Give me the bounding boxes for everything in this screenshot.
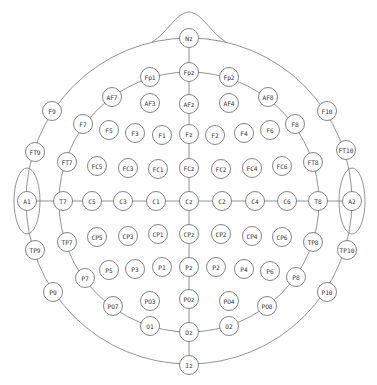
electrode-po3: PO3 bbox=[141, 292, 160, 311]
electrode-iz: Iz bbox=[180, 356, 199, 375]
electrode-cp2: CP2 bbox=[212, 225, 231, 244]
electrode-tp7: TP7 bbox=[58, 233, 77, 252]
electrode-fc6: FC6 bbox=[273, 157, 292, 176]
electrode-label: AF8 bbox=[262, 94, 273, 101]
electrode-fc3: FC3 bbox=[119, 159, 138, 178]
electrode-fz: Fz bbox=[180, 125, 199, 144]
electrode-p2: P2 bbox=[207, 258, 226, 277]
electrode-f8: F8 bbox=[286, 115, 305, 134]
electrode-f6: F6 bbox=[261, 121, 280, 140]
electrode-nz: Nz bbox=[180, 29, 199, 48]
electrode-poz: POz bbox=[180, 290, 199, 309]
electrode-fpz: Fpz bbox=[180, 63, 199, 82]
electrode-label: PO7 bbox=[107, 303, 118, 310]
electrode-p1: P1 bbox=[153, 258, 172, 277]
electrode-label: PO4 bbox=[223, 298, 234, 305]
electrode-label: F5 bbox=[105, 127, 113, 134]
electrode-label: CP5 bbox=[91, 234, 102, 241]
electrode-label: F4 bbox=[240, 130, 248, 137]
electrode-label: P8 bbox=[292, 274, 300, 281]
electrode-cp3: CP3 bbox=[119, 227, 138, 246]
electrode-tp10: TP10 bbox=[338, 241, 357, 260]
electrode-po7: PO7 bbox=[104, 297, 123, 316]
electrode-label: Nz bbox=[185, 35, 193, 42]
electrode-f5: F5 bbox=[100, 121, 119, 140]
electrode-p10: P10 bbox=[318, 283, 337, 302]
electrode-ft10: FT10 bbox=[337, 141, 356, 160]
electrode-o2: O2 bbox=[220, 317, 239, 336]
electrode-label: CP3 bbox=[122, 233, 133, 240]
electrode-f2: F2 bbox=[206, 126, 225, 145]
electrode-label: CPz bbox=[183, 231, 194, 238]
electrode-cz: Cz bbox=[180, 192, 199, 211]
electrode-label: FT9 bbox=[29, 149, 40, 156]
electrode-label: FT10 bbox=[339, 147, 354, 154]
electrode-f10: F10 bbox=[318, 102, 337, 121]
electrode-f1: F1 bbox=[153, 126, 172, 145]
electrode-label: F10 bbox=[321, 108, 332, 115]
electrode-fp1: Fp1 bbox=[141, 68, 160, 87]
electrode-label: FC1 bbox=[152, 166, 163, 173]
electrode-label: Fz bbox=[185, 131, 193, 138]
electrode-label: F8 bbox=[291, 121, 299, 128]
electrode-label: F1 bbox=[158, 132, 166, 139]
electrode-label: FT7 bbox=[61, 159, 72, 166]
electrode-fc5: FC5 bbox=[88, 157, 107, 176]
electrode-label: P6 bbox=[266, 268, 274, 275]
electrode-tp9: TP9 bbox=[26, 241, 45, 260]
electrode-label: F6 bbox=[266, 127, 274, 134]
electrode-label: FC6 bbox=[276, 163, 287, 170]
electrode-label: O2 bbox=[225, 323, 233, 330]
electrode-label: FC2 bbox=[215, 166, 226, 173]
electrode-o1: O1 bbox=[141, 317, 160, 336]
electrode-label: FT8 bbox=[307, 159, 318, 166]
electrode-p5: P5 bbox=[100, 261, 119, 280]
electrode-label: AFz bbox=[183, 101, 194, 108]
electrode-fc2: FC2 bbox=[212, 160, 231, 179]
electrode-c3: C3 bbox=[114, 192, 133, 211]
electrode-fcz: FCz bbox=[180, 159, 199, 178]
electrode-label: POz bbox=[183, 296, 194, 303]
electrode-label: P1 bbox=[158, 264, 166, 271]
electrode-po8: PO8 bbox=[258, 297, 277, 316]
electrode-label: P9 bbox=[49, 289, 57, 296]
electrode-c2: C2 bbox=[213, 192, 232, 211]
electrode-label: C3 bbox=[119, 198, 127, 205]
electrode-label: F9 bbox=[48, 108, 56, 115]
electrode-cp1: CP1 bbox=[149, 225, 168, 244]
electrode-cpz: CPz bbox=[180, 225, 199, 244]
electrode-p9: P9 bbox=[44, 283, 63, 302]
electrode-oz: Oz bbox=[180, 323, 199, 342]
electrode-label: PO3 bbox=[144, 298, 155, 305]
electrode-pz: Pz bbox=[180, 258, 199, 277]
electrodes-group: NzFpzAFzFzFCzCzCPzPzPOzOzIzFp1Fp2AF7AF3A… bbox=[18, 29, 362, 375]
electrode-label: TP9 bbox=[29, 247, 40, 254]
electrode-label: C2 bbox=[218, 198, 226, 205]
electrode-label: Cz bbox=[185, 198, 193, 205]
electrode-c6: C6 bbox=[278, 192, 297, 211]
electrode-c5: C5 bbox=[83, 192, 102, 211]
electrode-p7: P7 bbox=[76, 269, 95, 288]
electrode-afz: AFz bbox=[180, 95, 199, 114]
electrode-f9: F9 bbox=[43, 102, 62, 121]
electrode-label: AF3 bbox=[144, 100, 155, 107]
electrode-label: PO8 bbox=[261, 303, 272, 310]
electrode-label: Fpz bbox=[183, 69, 194, 77]
electrode-label: T7 bbox=[59, 198, 67, 205]
electrode-label: A1 bbox=[23, 198, 31, 205]
electrode-label: P5 bbox=[105, 267, 113, 274]
electrode-label: FCz bbox=[183, 165, 194, 172]
electrode-fc4: FC4 bbox=[243, 159, 262, 178]
electrode-label: C5 bbox=[88, 198, 96, 205]
electrode-fp2: Fp2 bbox=[220, 68, 239, 87]
electrode-p4: P4 bbox=[235, 260, 254, 279]
electrode-label: P10 bbox=[321, 289, 332, 296]
electrode-af7: AF7 bbox=[103, 88, 122, 107]
electrode-af8: AF8 bbox=[259, 88, 278, 107]
electrode-ft9: FT9 bbox=[26, 143, 45, 162]
electrode-label: F3 bbox=[131, 130, 139, 137]
electrode-c4: C4 bbox=[246, 192, 265, 211]
electrode-p8: P8 bbox=[287, 268, 306, 287]
electrode-a2: A2 bbox=[343, 192, 362, 211]
electrode-label: P2 bbox=[212, 264, 220, 271]
